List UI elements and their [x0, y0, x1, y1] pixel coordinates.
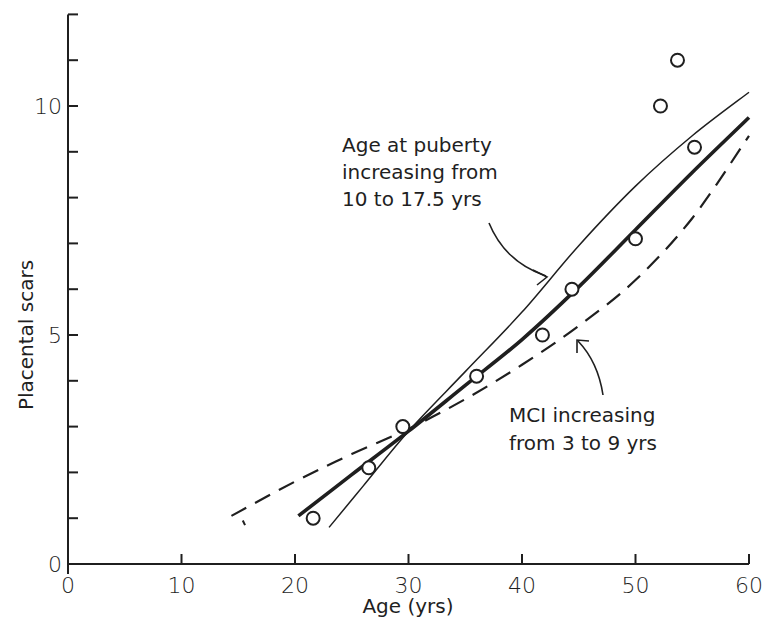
y-tick-label: 0: [48, 552, 62, 577]
data-point-marker: [362, 461, 375, 474]
annotation-puberty-line-1: Age at puberty: [342, 133, 492, 157]
x-tick-label: 10: [168, 573, 196, 598]
annotation-puberty-line-3: 10 to 17.5 yrs: [342, 187, 482, 211]
data-point-marker: [396, 420, 409, 433]
x-tick-label: 0: [61, 573, 75, 598]
data-point-marker: [470, 370, 483, 383]
y-axis-label: Placental scars: [14, 260, 38, 410]
annotation-puberty-line-2: increasing from: [342, 160, 498, 184]
y-tick-label: 10: [34, 94, 62, 119]
data-point-marker: [671, 54, 684, 67]
curves: [231, 92, 749, 527]
annotation-mci-line-1: MCI increasing: [509, 403, 655, 427]
data-point-marker: [654, 100, 667, 113]
x-tick-label: 20: [281, 573, 309, 598]
data-point-marker: [565, 283, 578, 296]
stray-dash: [243, 520, 245, 525]
puberty-curve: [329, 92, 749, 527]
arrow-mci: [578, 341, 603, 395]
axes: 01020304050600510: [34, 14, 763, 598]
data-point-marker: [536, 329, 549, 342]
data-point-marker: [629, 232, 642, 245]
arrow-puberty: [489, 223, 546, 276]
x-tick-label: 40: [508, 573, 536, 598]
x-tick-label: 60: [735, 573, 763, 598]
annotation-mci-line-2: from 3 to 9 yrs: [509, 431, 657, 455]
data-point-marker: [307, 512, 320, 525]
x-tick-label: 50: [622, 573, 650, 598]
chart: 01020304050600510 Age (yrs) Placental sc…: [0, 0, 777, 643]
y-tick-label: 5: [48, 323, 62, 348]
x-axis-label: Age (yrs): [362, 594, 453, 618]
data-point-marker: [688, 141, 701, 154]
